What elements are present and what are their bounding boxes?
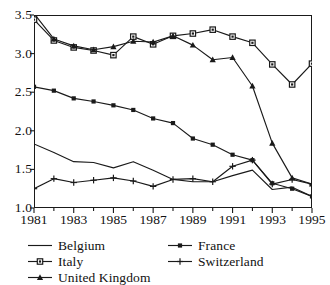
series-belgium [34,144,312,196]
legend-marker-icon [28,256,52,267]
x-tick-label: 1995 [292,212,330,227]
x-tick-label: 1985 [93,212,133,227]
chart-legend: BelgiumItalyUnited Kingdom FranceSwitzer… [28,238,316,284]
legend-item-switzerland[interactable]: Switzerland [168,254,264,269]
x-tick-label: 1991 [213,212,253,227]
legend-marker-icon [168,240,192,251]
legend-item-label: Switzerland [198,255,264,269]
legend-column-left: BelgiumItalyUnited Kingdom [28,238,151,285]
legend-marker-icon [28,240,52,251]
legend-item-label: France [198,239,235,253]
legend-item-label: United Kingdom [58,271,151,285]
legend-marker-icon [168,256,192,267]
x-tick-label: 1993 [252,212,292,227]
legend-marker-icon [28,272,52,283]
legend-item-label: Belgium [58,239,105,253]
legend-item-belgium[interactable]: Belgium [28,238,151,253]
x-tick-label: 1987 [133,212,173,227]
legend-column-right: FranceSwitzerland [168,238,264,270]
x-tick-label: 1981 [14,212,54,227]
legend-item-italy[interactable]: Italy [28,254,151,269]
series-italy [31,17,314,87]
legend-item-label: Italy [58,255,83,269]
x-tick-label: 1983 [54,212,94,227]
legend-item-france[interactable]: France [168,238,264,253]
legend-item-united-kingdom[interactable]: United Kingdom [28,270,151,285]
x-tick-label: 1989 [173,212,213,227]
